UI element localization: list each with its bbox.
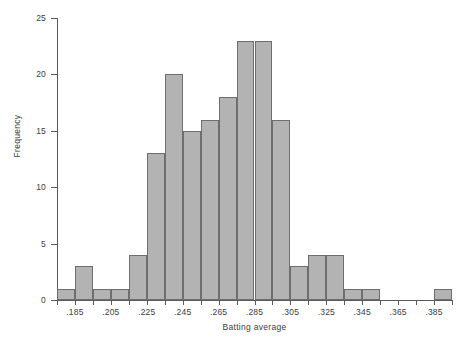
histogram-bar bbox=[183, 131, 201, 300]
x-axis-tick bbox=[416, 300, 417, 305]
y-axis-tick-label: 10 bbox=[0, 183, 46, 192]
histogram-bar bbox=[129, 255, 147, 300]
x-axis-tick bbox=[272, 300, 273, 305]
histogram-bar bbox=[111, 289, 129, 300]
histogram-bar bbox=[165, 74, 183, 300]
histogram-bar bbox=[201, 120, 219, 300]
histogram-bar bbox=[93, 289, 111, 300]
x-axis-tick-label: .365 bbox=[378, 308, 418, 317]
histogram-bar bbox=[272, 120, 290, 300]
x-axis-tick bbox=[326, 300, 327, 305]
x-axis-tick bbox=[165, 300, 166, 305]
x-axis-tick-label: .385 bbox=[414, 308, 454, 317]
x-axis-tick bbox=[147, 300, 148, 305]
x-axis-tick bbox=[398, 300, 399, 305]
x-axis-tick bbox=[183, 300, 184, 305]
x-axis-tick-label: .185 bbox=[55, 308, 95, 317]
histogram-bar bbox=[434, 289, 452, 300]
x-axis-tick bbox=[201, 300, 202, 305]
x-axis-tick-label: .265 bbox=[199, 308, 239, 317]
x-axis-tick-label: .285 bbox=[235, 308, 275, 317]
histogram-bar bbox=[57, 289, 75, 300]
histogram-figure: 0510152025 .185.205.225.245.265.285.305.… bbox=[0, 0, 461, 345]
x-axis-tick bbox=[380, 300, 381, 305]
histogram-bar bbox=[326, 255, 344, 300]
x-axis-tick bbox=[237, 300, 238, 305]
plot-area bbox=[57, 18, 452, 300]
x-axis-tick-label: .345 bbox=[342, 308, 382, 317]
histogram-bar bbox=[147, 153, 165, 300]
histogram-bar bbox=[344, 289, 362, 300]
x-axis-tick-label: .305 bbox=[270, 308, 310, 317]
x-axis-tick bbox=[75, 300, 76, 305]
x-axis-tick bbox=[344, 300, 345, 305]
x-axis-tick bbox=[255, 300, 256, 305]
histogram-bar bbox=[219, 97, 237, 300]
x-axis-tick bbox=[452, 300, 453, 305]
x-axis-tick-label: .325 bbox=[306, 308, 346, 317]
y-axis-tick-label: 20 bbox=[0, 70, 46, 79]
histogram-bar bbox=[308, 255, 326, 300]
histogram-bar bbox=[237, 41, 255, 300]
x-axis-tick bbox=[290, 300, 291, 305]
x-axis-tick bbox=[93, 300, 94, 305]
histogram-bar bbox=[255, 41, 273, 300]
x-axis-tick bbox=[57, 300, 58, 305]
y-axis-title: Frequency bbox=[12, 76, 22, 196]
x-axis-tick-label: .245 bbox=[163, 308, 203, 317]
x-axis-tick bbox=[362, 300, 363, 305]
y-axis-tick-label: 15 bbox=[0, 127, 46, 136]
histogram-bar bbox=[362, 289, 380, 300]
x-axis-tick bbox=[308, 300, 309, 305]
x-axis-title: Batting average bbox=[57, 322, 452, 332]
histogram-bar bbox=[75, 266, 93, 300]
x-axis-tick-label: .205 bbox=[91, 308, 131, 317]
x-axis-tick bbox=[434, 300, 435, 305]
x-axis-tick bbox=[219, 300, 220, 305]
y-axis-tick-label: 5 bbox=[0, 240, 46, 249]
histogram-bar bbox=[290, 266, 308, 300]
y-axis-tick-label: 25 bbox=[0, 14, 46, 23]
x-axis-tick bbox=[111, 300, 112, 305]
x-axis-tick bbox=[129, 300, 130, 305]
y-axis-tick-label: 0 bbox=[0, 296, 46, 305]
x-axis-tick-label: .225 bbox=[127, 308, 167, 317]
